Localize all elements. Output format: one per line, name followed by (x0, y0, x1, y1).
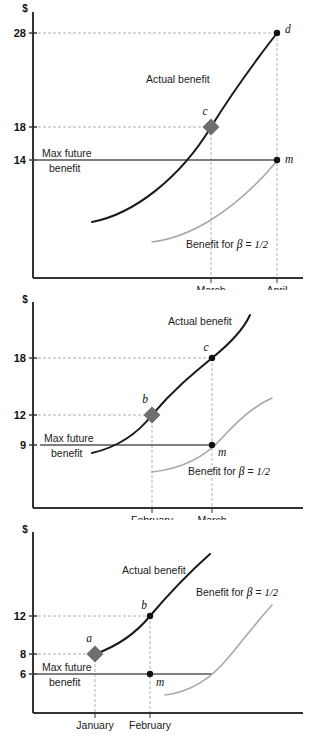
y-axis-unit: $ (22, 524, 28, 535)
point-label-m: m (218, 446, 226, 458)
beta-label-prefix: Benefit for (196, 586, 247, 598)
point-label-c: c (202, 105, 207, 117)
marker-diamond-a (87, 646, 104, 663)
marker-dot-b (147, 613, 153, 619)
beta-label-prefix: Benefit for (188, 465, 239, 477)
actual-benefit-label: Actual benefit (146, 73, 210, 85)
ytick-label-9: 9 (20, 439, 26, 451)
max-future-benefit-label-line1: Max future (42, 661, 92, 673)
ytick-label-18: 18 (14, 121, 26, 133)
point-label-m: m (156, 676, 164, 688)
beta-value: 1/2 (254, 239, 268, 250)
marker-dot-m (274, 157, 280, 163)
marker-dot-m (209, 442, 215, 448)
ytick-label-14: 14 (14, 154, 27, 166)
point-label-d: d (285, 23, 291, 35)
point-label-m: m (285, 153, 293, 165)
chart-panel-top: $ 28 18 14 March April Max future benefi… (0, 0, 313, 290)
three-panel-benefit-figure: $ 28 18 14 March April Max future benefi… (0, 0, 313, 744)
point-label-a: a (86, 632, 92, 644)
beta-benefit-label: Benefit for β = 1/2 (196, 586, 279, 599)
actual-benefit-label: Actual benefit (122, 564, 186, 576)
max-future-benefit-label-line1: Max future (42, 147, 92, 159)
chart-panel-middle: $ 18 12 9 February March Max future bene… (0, 290, 313, 520)
y-axis-unit: $ (22, 3, 28, 14)
ytick-label-8: 8 (20, 648, 26, 660)
marker-dot-c (209, 355, 215, 361)
max-future-benefit-label-line1: Max future (44, 432, 94, 444)
ytick-label-18: 18 (14, 352, 26, 364)
beta-benefit-curve (165, 605, 272, 695)
beta-benefit-label: Benefit for β = 1/2 (188, 465, 271, 478)
beta-equals: = (245, 465, 257, 477)
ytick-label-28: 28 (14, 27, 26, 39)
chart-panel-bottom: $ 12 8 6 January February Max future ben… (0, 520, 313, 744)
max-future-benefit-label-line2: benefit (49, 676, 81, 688)
beta-equals: = (243, 238, 255, 250)
y-axis-unit: $ (22, 294, 28, 305)
point-label-b: b (141, 599, 147, 611)
beta-value: 1/2 (264, 587, 278, 598)
max-future-benefit-label-line2: benefit (51, 447, 83, 459)
actual-benefit-label: Actual benefit (168, 315, 232, 327)
beta-benefit-label: Benefit for β = 1/2 (186, 238, 269, 251)
marker-dot-m (147, 671, 153, 677)
beta-equals: = (253, 586, 265, 598)
ytick-label-6: 6 (20, 668, 26, 680)
marker-dot-d (274, 30, 280, 36)
ytick-label-12: 12 (14, 409, 26, 421)
xtick-label-january: January (76, 719, 114, 731)
point-label-b: b (142, 393, 148, 405)
marker-diamond-c (203, 119, 220, 136)
ytick-label-12: 12 (14, 610, 26, 622)
beta-benefit-curve (152, 161, 277, 242)
xtick-label-february: February (129, 719, 172, 731)
beta-label-prefix: Benefit for (186, 238, 237, 250)
point-label-c: c (203, 341, 208, 353)
max-future-benefit-label-line2: benefit (49, 162, 81, 174)
beta-value: 1/2 (256, 466, 270, 477)
